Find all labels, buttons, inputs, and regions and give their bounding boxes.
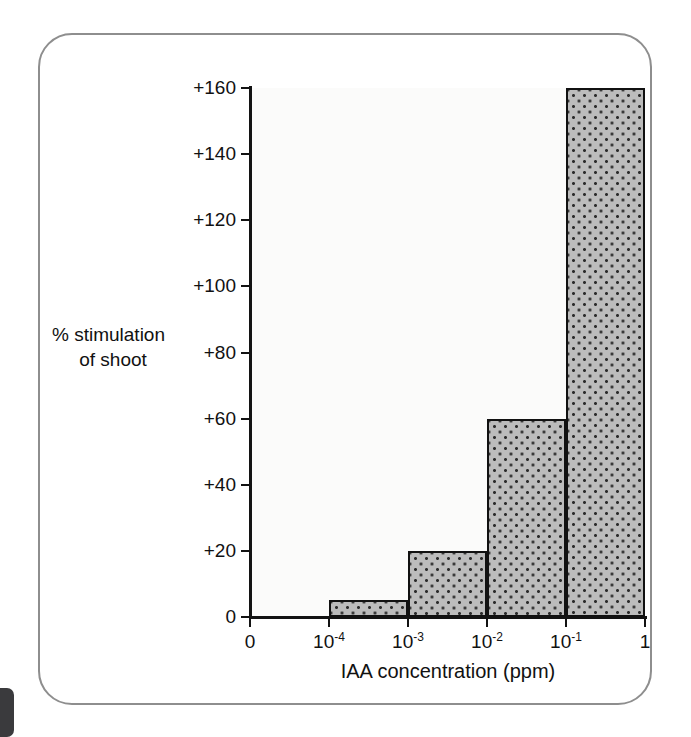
x-tick-label-1: 10-4 <box>294 631 364 653</box>
x-tick-label-2: 10-3 <box>373 631 443 653</box>
x-tick-label-0: 0 <box>215 631 285 653</box>
y-tick-+140 <box>241 153 251 155</box>
y-tick-label-+100: +100 <box>164 276 236 295</box>
x-tick-4 <box>565 617 567 627</box>
y-tick-label-+60: +60 <box>164 409 236 428</box>
y-axis-title-line-1: % stimulation <box>52 324 165 345</box>
y-tick-+80 <box>241 352 251 354</box>
y-tick-label-+20: +20 <box>164 541 236 560</box>
x-tick-label-3: 10-2 <box>452 631 522 653</box>
y-tick-+40 <box>241 484 251 486</box>
x-axis-line <box>249 616 647 619</box>
x-tick-label-4: 10-1 <box>531 631 601 653</box>
y-tick-label-+140: +140 <box>164 144 236 163</box>
y-tick-label-+80: +80 <box>164 343 236 362</box>
x-axis-title: IAA concentration (ppm) <box>251 660 645 683</box>
x-tick-5 <box>644 617 646 627</box>
y-tick-label-+40: +40 <box>164 475 236 494</box>
x-tick-0 <box>249 617 251 627</box>
y-tick-+160 <box>241 87 251 89</box>
y-tick-+60 <box>241 418 251 420</box>
x-tick-3 <box>486 617 488 627</box>
bar-2 <box>408 551 487 617</box>
y-tick-+20 <box>241 550 251 552</box>
x-tick-2 <box>407 617 409 627</box>
y-tick-+100 <box>241 285 251 287</box>
bar-1 <box>329 600 408 617</box>
y-axis-title: % stimulation of shoot <box>52 322 174 372</box>
y-tick-+120 <box>241 219 251 221</box>
x-tick-label-5: 1 <box>610 631 680 653</box>
bar-3 <box>487 419 566 617</box>
y-tick-label-+120: +120 <box>164 210 236 229</box>
y-tick-label-+160: +160 <box>164 78 236 97</box>
y-axis-title-line-2: of shoot <box>52 347 174 372</box>
bar-chart: 0+20+40+60+80+100+120+140+160 010-410-31… <box>0 0 691 737</box>
x-tick-1 <box>328 617 330 627</box>
y-tick-label-0: 0 <box>164 607 236 626</box>
bar-4 <box>566 88 645 617</box>
